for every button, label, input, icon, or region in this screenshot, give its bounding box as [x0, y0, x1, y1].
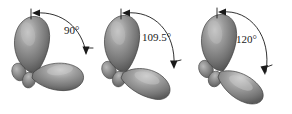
angle-label-90: 90° — [64, 24, 79, 36]
orbital-diagram-90: 90° — [0, 0, 97, 114]
orbital-diagram-120: 120° — [190, 0, 287, 114]
orbital-lobe-lower-right — [218, 71, 263, 104]
angle-label-120: 120° — [236, 33, 257, 45]
orbital-angle-figure: 90° — [0, 0, 292, 114]
orbital-lobe-lower-right — [121, 69, 170, 100]
angle-label-109-5: 109.5° — [142, 31, 171, 43]
orbital-diagram-109-5: 109.5° — [92, 0, 189, 114]
